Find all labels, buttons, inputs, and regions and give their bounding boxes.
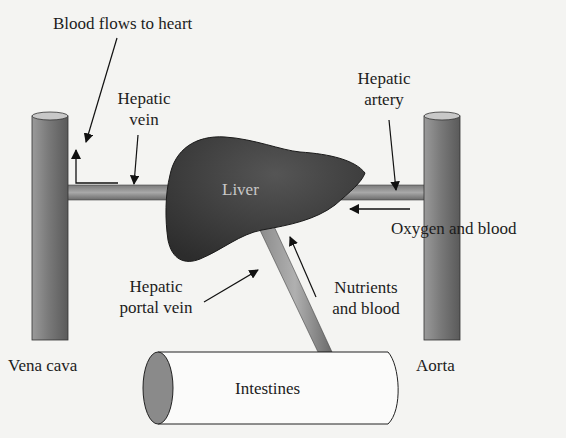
hepatic-vein-pointer-arrow	[134, 135, 138, 184]
hepatic-portal-vein-label-line2: portal vein	[104, 297, 208, 318]
oxygen-and-blood-label: Oxygen and blood	[391, 218, 517, 239]
hepatic-portal-vein-label-line1: Hepatic	[104, 276, 208, 297]
nutrients-and-blood-label: Nutrients and blood	[324, 277, 408, 319]
flow-to-heart-arrow	[76, 150, 118, 183]
aorta-label: Aorta	[416, 355, 455, 376]
hepatic-portal-vein-pointer-arrow	[204, 270, 258, 302]
hepatic-portal-vein-tube	[258, 222, 332, 352]
liver-organ	[166, 137, 365, 262]
hepatic-vein-label-line2: vein	[114, 109, 174, 130]
nutrients-and-blood-label-line2: and blood	[324, 298, 408, 319]
hepatic-portal-vein-label: Hepatic portal vein	[104, 276, 208, 318]
intestines-label: Intestines	[235, 378, 300, 399]
hepatic-artery-label-line1: Hepatic	[352, 68, 416, 89]
hepatic-artery-pointer-arrow	[389, 120, 396, 190]
hepatic-artery-label-line2: artery	[352, 89, 416, 110]
vena-cava-vessel	[32, 112, 68, 340]
nutrients-and-blood-label-line1: Nutrients	[324, 277, 408, 298]
hepatic-artery-label: Hepatic artery	[352, 68, 416, 110]
liver-label: Liver	[222, 180, 259, 200]
vena-cava-label: Vena cava	[8, 355, 77, 376]
hepatic-vein-label-line1: Hepatic	[114, 88, 174, 109]
hepatic-vein-label: Hepatic vein	[114, 88, 174, 130]
blood-flows-to-heart-pointer-arrow	[86, 38, 117, 142]
blood-flows-to-heart-label: Blood flows to heart	[53, 13, 192, 34]
